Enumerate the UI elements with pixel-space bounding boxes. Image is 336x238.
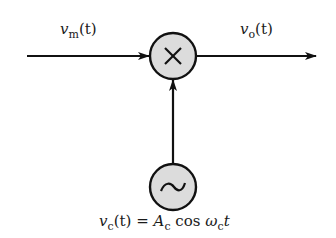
diagram-canvas	[0, 0, 336, 238]
input-signal-label: vm(t)	[60, 20, 97, 38]
amplitude-subscript: c	[164, 220, 170, 233]
input-subscript: m	[68, 28, 78, 41]
output-arg: (t)	[255, 20, 273, 38]
output-subscript: o	[248, 28, 255, 41]
carrier-subscript: c	[107, 220, 113, 233]
amplitude-symbol: A	[154, 212, 165, 230]
time-variable: t	[224, 212, 230, 230]
output-signal-label: vo(t)	[240, 20, 273, 38]
cos-function: cos	[175, 212, 200, 230]
equals-sign: =	[136, 212, 149, 230]
input-arg: (t)	[79, 20, 97, 38]
omega-symbol: ω	[205, 212, 217, 230]
carrier-arg: (t)	[114, 212, 132, 230]
carrier-equation: vc(t) = Ac cos ωct	[99, 212, 230, 230]
omega-subscript: c	[217, 220, 223, 233]
oscillator-block	[150, 164, 196, 210]
multiplier-block	[150, 33, 196, 79]
